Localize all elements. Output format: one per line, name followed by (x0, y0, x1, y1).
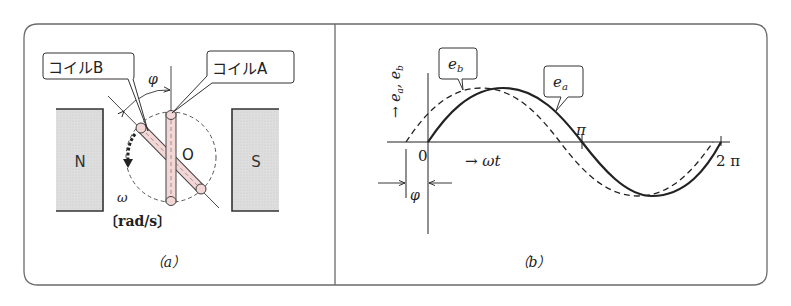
coil-a (166, 111, 176, 206)
coil-b-label: コイルB (48, 59, 103, 77)
curve-e-b-callout: eb (439, 48, 477, 90)
two-pi-label: 2 π (716, 152, 740, 170)
phase-symbol-a: φ (148, 71, 158, 87)
x-axis-label: → ωt (465, 152, 502, 170)
north-pole-label: N (74, 153, 85, 171)
figure-canvas: N S φ O (0, 0, 791, 306)
coil-a-label: コイルA (212, 60, 268, 78)
center-label: O (182, 146, 194, 164)
caption-b: （b） (515, 254, 552, 270)
origin-label: 0 (418, 147, 428, 165)
phase-angle-arc (124, 90, 170, 111)
angular-velocity-unit: 〔rad/s〕 (104, 213, 171, 229)
coil-a-callout: コイルA (172, 51, 294, 113)
phase-dimension: φ (378, 149, 452, 203)
caption-a: （a） (150, 254, 186, 270)
phase-symbol-b: φ (410, 187, 420, 203)
north-magnet: N (56, 109, 103, 211)
outer-frame (24, 24, 767, 285)
curve-e-a-callout: ea (544, 66, 583, 111)
pi-label: π (575, 121, 587, 139)
svg-text:→ ea, eb: → ea, eb (387, 65, 405, 118)
rotation-direction-icon (123, 134, 135, 168)
panel-b: → ea, eb 0 π 2 π → ωt φ eb ea (378, 48, 740, 270)
panel-a: N S φ O (43, 51, 294, 270)
angular-velocity-symbol: ω (117, 190, 128, 205)
y-axis-label: → ea, eb (387, 65, 405, 118)
south-magnet: S (232, 109, 279, 211)
south-pole-label: S (251, 153, 261, 171)
